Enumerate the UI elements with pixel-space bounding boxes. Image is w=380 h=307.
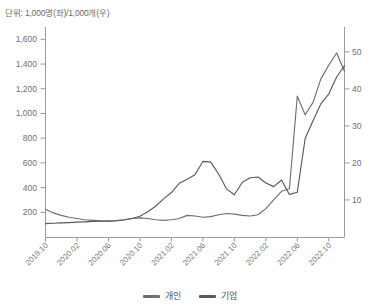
left-tick-label: 1,200 xyxy=(16,84,38,94)
line-chart-plot: 2004006008001,0001,2001,4001,600 1020304… xyxy=(0,0,380,307)
x-tick-label: 2022.02 xyxy=(244,241,270,267)
left-tick-label: 1,000 xyxy=(16,108,38,118)
left-tick-label: 800 xyxy=(23,133,37,143)
left-tick-label: 1,400 xyxy=(16,59,38,69)
left-tick-label: 400 xyxy=(23,183,37,193)
left-tick-label: 200 xyxy=(23,207,37,217)
right-tick-label: 30 xyxy=(352,121,362,131)
right-tick-label: 50 xyxy=(352,47,362,57)
x-tick-label: 2020.06 xyxy=(87,241,113,267)
x-tick-label: 2022.10 xyxy=(307,241,334,268)
left-axis: 2004006008001,0001,2001,4001,600 xyxy=(16,27,46,237)
x-tick-label: 2019.10 xyxy=(24,241,51,268)
chart-legend: 개인 기업 xyxy=(0,292,380,301)
right-tick-label: 10 xyxy=(352,195,362,205)
x-tick-label: 2022.06 xyxy=(275,241,301,267)
x-axis: 2019.102020.022020.062020.102021.022021.… xyxy=(24,238,345,268)
right-tick-label: 20 xyxy=(352,158,362,168)
x-tick-label: 2020.02 xyxy=(55,241,81,267)
legend-label-corporate: 기업 xyxy=(221,292,237,301)
legend-item-individual: 개인 xyxy=(143,292,181,301)
x-tick-label: 2020.10 xyxy=(118,241,145,268)
right-tick-label: 40 xyxy=(352,84,362,94)
x-tick-label: 2021.06 xyxy=(181,241,207,267)
legend-swatch-corporate xyxy=(199,295,216,297)
series-line-corporate xyxy=(46,66,345,224)
series-line-individual xyxy=(46,53,345,221)
right-axis: 1020304050 xyxy=(345,27,362,237)
legend-item-corporate: 기업 xyxy=(199,292,237,301)
x-tick-label: 2021.02 xyxy=(150,241,176,267)
chart-container: 단위: 1,000명(좌)/1,000개(우) 2004006008001,00… xyxy=(0,0,380,307)
left-tick-label: 600 xyxy=(23,158,37,168)
series-layer xyxy=(46,53,345,224)
legend-label-individual: 개인 xyxy=(165,292,181,301)
legend-swatch-individual xyxy=(143,295,160,297)
left-tick-label: 1,600 xyxy=(16,34,38,44)
x-tick-label: 2021.10 xyxy=(212,241,239,268)
